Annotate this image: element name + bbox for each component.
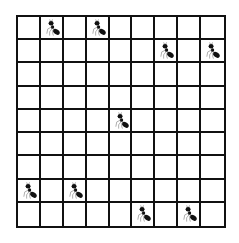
- board-cell-r1-c1[interactable]: [41, 40, 64, 63]
- board-cell-r0-c5[interactable]: [132, 17, 155, 40]
- board-cell-r7-c0[interactable]: [18, 180, 41, 203]
- board-cell-r6-c5[interactable]: [132, 156, 155, 179]
- board-cell-r5-c0[interactable]: [18, 133, 41, 156]
- board-cell-r3-c3[interactable]: [87, 87, 110, 110]
- board-cell-r7-c8[interactable]: [201, 180, 224, 203]
- board-cell-r4-c2[interactable]: [64, 110, 87, 133]
- board-cell-r2-c4[interactable]: [110, 63, 133, 86]
- board-cell-r7-c5[interactable]: [132, 180, 155, 203]
- board-cell-r5-c8[interactable]: [201, 133, 224, 156]
- board-cell-r1-c6[interactable]: [155, 40, 178, 63]
- board-cell-r0-c7[interactable]: [178, 17, 201, 40]
- board-cell-r3-c4[interactable]: [110, 87, 133, 110]
- board-cell-r1-c7[interactable]: [178, 40, 201, 63]
- board-cell-r5-c1[interactable]: [41, 133, 64, 156]
- board-cell-r6-c2[interactable]: [64, 156, 87, 179]
- board-cell-r3-c1[interactable]: [41, 87, 64, 110]
- board-cell-r0-c2[interactable]: [64, 17, 87, 40]
- board-cell-r1-c3[interactable]: [87, 40, 110, 63]
- board-cell-r2-c1[interactable]: [41, 63, 64, 86]
- board-cell-r4-c6[interactable]: [155, 110, 178, 133]
- board-cell-r5-c6[interactable]: [155, 133, 178, 156]
- ant-icon: [157, 41, 176, 61]
- board-cell-r1-c4[interactable]: [110, 40, 133, 63]
- board-cell-r6-c8[interactable]: [201, 156, 224, 179]
- board-cell-r0-c1[interactable]: [41, 17, 64, 40]
- board-cell-r3-c6[interactable]: [155, 87, 178, 110]
- board-cell-r6-c7[interactable]: [178, 156, 201, 179]
- board-cell-r8-c1[interactable]: [41, 203, 64, 226]
- board-cell-r6-c0[interactable]: [18, 156, 41, 179]
- board-cell-r7-c1[interactable]: [41, 180, 64, 203]
- game-board: [16, 15, 226, 228]
- board-cell-r2-c5[interactable]: [132, 63, 155, 86]
- board-cell-r3-c8[interactable]: [201, 87, 224, 110]
- board-cell-r4-c8[interactable]: [201, 110, 224, 133]
- board-cell-r6-c6[interactable]: [155, 156, 178, 179]
- board-cell-r0-c4[interactable]: [110, 17, 133, 40]
- board-cell-r4-c5[interactable]: [132, 110, 155, 133]
- board-cell-r5-c2[interactable]: [64, 133, 87, 156]
- board-cell-r1-c5[interactable]: [132, 40, 155, 63]
- board-cell-r7-c2[interactable]: [64, 180, 87, 203]
- board-cell-r1-c8[interactable]: [201, 40, 224, 63]
- board-cell-r8-c6[interactable]: [155, 203, 178, 226]
- board-cell-r8-c4[interactable]: [110, 203, 133, 226]
- board-cell-r0-c3[interactable]: [87, 17, 110, 40]
- board-cell-r0-c6[interactable]: [155, 17, 178, 40]
- board-cell-r5-c3[interactable]: [87, 133, 110, 156]
- board-cell-r7-c7[interactable]: [178, 180, 201, 203]
- board-cell-r2-c0[interactable]: [18, 63, 41, 86]
- board-cell-r4-c3[interactable]: [87, 110, 110, 133]
- board-cell-r4-c4[interactable]: [110, 110, 133, 133]
- board-cell-r0-c0[interactable]: [18, 17, 41, 40]
- ant-icon: [89, 18, 108, 38]
- board-cell-r3-c0[interactable]: [18, 87, 41, 110]
- board-cell-r4-c1[interactable]: [41, 110, 64, 133]
- board-cell-r2-c2[interactable]: [64, 63, 87, 86]
- ant-icon: [112, 111, 131, 131]
- board-cell-r3-c2[interactable]: [64, 87, 87, 110]
- board-cell-r6-c3[interactable]: [87, 156, 110, 179]
- ant-icon: [180, 204, 199, 224]
- board-cell-r8-c7[interactable]: [178, 203, 201, 226]
- ant-icon: [43, 18, 62, 38]
- board-cell-r3-c7[interactable]: [178, 87, 201, 110]
- board-cell-r8-c5[interactable]: [132, 203, 155, 226]
- board-cell-r8-c0[interactable]: [18, 203, 41, 226]
- board-cell-r1-c2[interactable]: [64, 40, 87, 63]
- board-cell-r2-c6[interactable]: [155, 63, 178, 86]
- ant-icon: [20, 181, 39, 201]
- board-cell-r4-c7[interactable]: [178, 110, 201, 133]
- board-cell-r3-c5[interactable]: [132, 87, 155, 110]
- board-cell-r5-c5[interactable]: [132, 133, 155, 156]
- ant-icon: [134, 204, 153, 224]
- ant-icon: [203, 41, 222, 61]
- board-cell-r5-c4[interactable]: [110, 133, 133, 156]
- board-cell-r2-c3[interactable]: [87, 63, 110, 86]
- board-cell-r2-c7[interactable]: [178, 63, 201, 86]
- board-cell-r7-c6[interactable]: [155, 180, 178, 203]
- board-cell-r4-c0[interactable]: [18, 110, 41, 133]
- board-cell-r0-c8[interactable]: [201, 17, 224, 40]
- board-cell-r6-c1[interactable]: [41, 156, 64, 179]
- ant-icon: [66, 181, 85, 201]
- board-cell-r6-c4[interactable]: [110, 156, 133, 179]
- board-cell-r8-c3[interactable]: [87, 203, 110, 226]
- board-cell-r8-c8[interactable]: [201, 203, 224, 226]
- board-cell-r7-c4[interactable]: [110, 180, 133, 203]
- board-cell-r2-c8[interactable]: [201, 63, 224, 86]
- board-cell-r8-c2[interactable]: [64, 203, 87, 226]
- board-cell-r7-c3[interactable]: [87, 180, 110, 203]
- board-cell-r5-c7[interactable]: [178, 133, 201, 156]
- board-cell-r1-c0[interactable]: [18, 40, 41, 63]
